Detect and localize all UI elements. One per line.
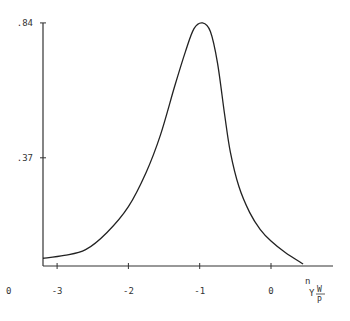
y-tick-label: .37 [17, 153, 33, 163]
x-axis-label-gamma: Y [309, 288, 315, 298]
y-tick-label: .84 [17, 18, 33, 28]
series-line-density [43, 23, 303, 264]
x-tick-label: -2 [123, 286, 134, 296]
x-axis-label-n: n [305, 276, 310, 286]
x-tick-label: -1 [194, 286, 205, 296]
origin-label: 0 [6, 286, 11, 296]
x-axis-label-denominator: P [317, 296, 322, 305]
x-ticks: -3-2-10 [52, 263, 274, 296]
x-tick-label: 0 [268, 286, 273, 296]
x-axis-label: n Y W P [305, 276, 325, 305]
chart: -3-2-10 .37.84 0 n Y W P [0, 0, 350, 321]
x-axis-label-numerator: W [317, 285, 322, 294]
y-ticks: .37.84 [17, 18, 46, 163]
x-tick-label: -3 [52, 286, 63, 296]
